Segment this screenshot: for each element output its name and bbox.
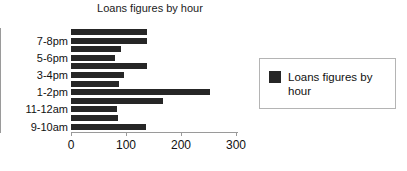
bar — [71, 29, 147, 35]
x-axis-line — [71, 132, 238, 133]
x-axis-tick-label: 200 — [161, 138, 201, 152]
category-label: 3-4pm — [8, 70, 68, 81]
bar-fill — [71, 63, 147, 69]
legend-entry-label: Loans figures by hour — [288, 70, 388, 98]
y-axis-line — [0, 28, 1, 133]
x-axis-tick — [236, 132, 237, 136]
bar-fill — [71, 29, 147, 35]
plot-area — [71, 28, 237, 132]
bar-fill — [71, 38, 147, 44]
legend-entry: Loans figures by hour — [269, 70, 388, 98]
bar-fill — [71, 124, 146, 130]
bar — [71, 89, 210, 95]
chart-title: Loans figures by hour — [60, 2, 240, 15]
bar — [71, 98, 163, 104]
bar-fill — [71, 115, 118, 121]
bar-fill — [71, 98, 163, 104]
bar — [71, 55, 115, 61]
bar — [71, 106, 117, 112]
category-label: 9-10am — [8, 122, 68, 133]
bar-fill — [71, 106, 117, 112]
category-label: 1-2pm — [8, 87, 68, 98]
bar-fill — [71, 46, 121, 52]
bar-fill — [71, 72, 124, 78]
category-label: 5-6pm — [8, 53, 68, 64]
bar — [71, 124, 146, 130]
bar-fill — [71, 89, 210, 95]
x-axis-tick — [126, 132, 127, 136]
bar-fill — [71, 81, 119, 87]
x-axis-tick-label: 300 — [216, 138, 256, 152]
legend-swatch-icon — [269, 71, 281, 83]
bar-chart-figure: Loans figures by hour 7-8pm5-6pm3-4pm1-2… — [0, 0, 407, 171]
bar — [71, 81, 119, 87]
bar — [71, 115, 118, 121]
bar — [71, 63, 147, 69]
x-axis-tick — [181, 132, 182, 136]
bar — [71, 38, 147, 44]
category-label: 11-12am — [8, 104, 68, 115]
bar-fill — [71, 55, 115, 61]
x-axis-tick — [71, 132, 72, 136]
x-axis-tick-label: 100 — [106, 138, 146, 152]
x-axis-tick-label: 0 — [51, 138, 91, 152]
chart-legend: Loans figures by hour — [259, 58, 396, 109]
bar — [71, 72, 124, 78]
bar — [71, 46, 121, 52]
category-label: 7-8pm — [8, 36, 68, 47]
